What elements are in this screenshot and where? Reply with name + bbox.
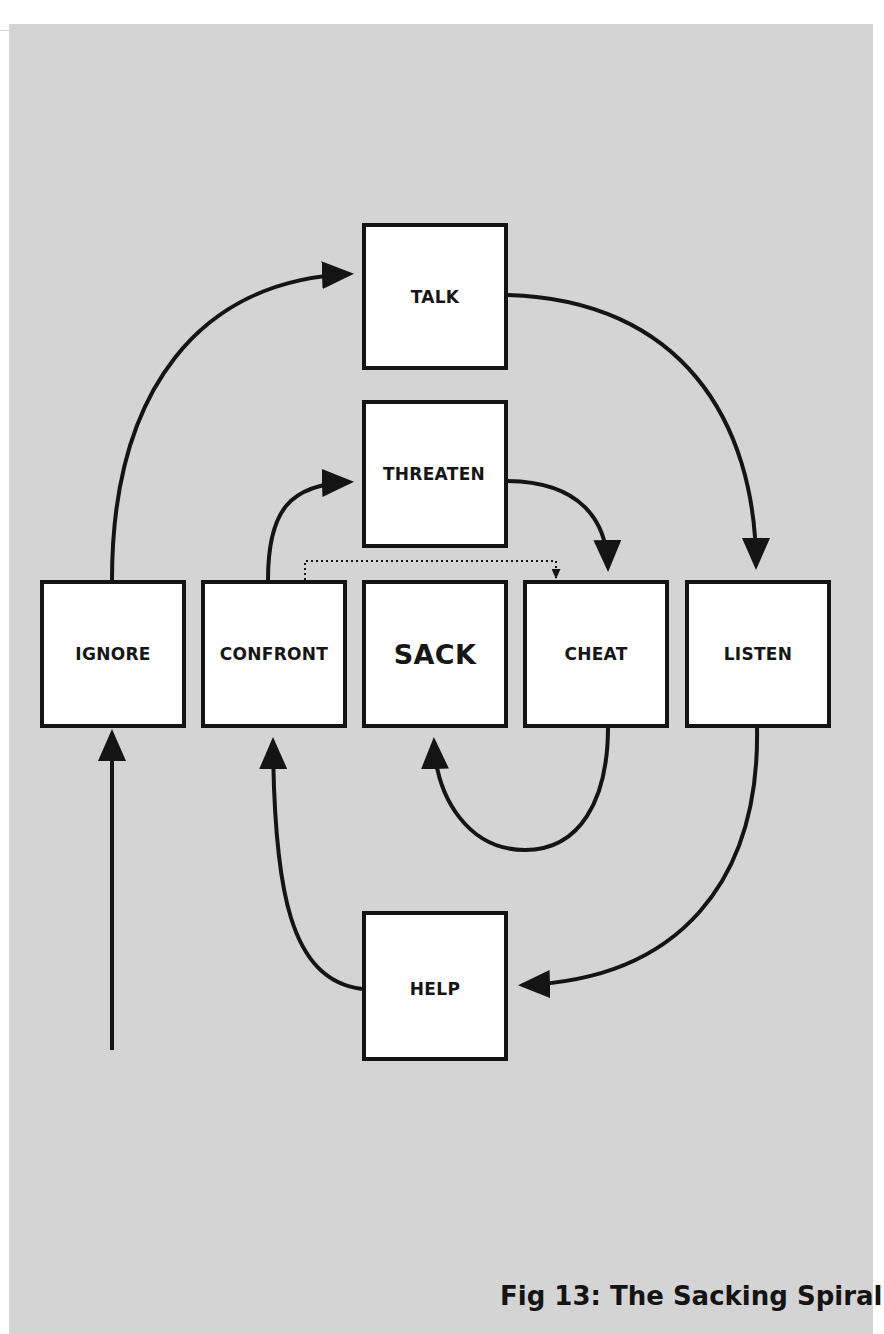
node-threaten: THREATEN [362,400,508,548]
arrow-threaten-to-cheat [508,481,608,568]
arrow-help-to-confront [273,741,362,989]
figure-caption: Fig 13: The Sacking Spiral [500,1281,840,1311]
node-listen-label: LISTEN [724,644,793,664]
arrow-cheat-to-sack [434,727,608,850]
arrow-listen-to-help [522,727,757,985]
node-ignore: IGNORE [40,580,186,728]
node-cheat-label: CHEAT [564,644,627,664]
node-sack: SACK [362,580,508,728]
node-listen: LISTEN [685,580,831,728]
node-help-label: HELP [410,979,460,999]
node-threaten-label: THREATEN [383,464,485,484]
node-help: HELP [362,911,508,1061]
arrow-confront-to-cheat-dotted [305,561,556,580]
arrow-talk-to-listen [508,295,756,566]
node-talk: TALK [362,223,508,370]
node-ignore-label: IGNORE [75,644,150,664]
node-sack-label: SACK [394,639,476,670]
arrow-confront-to-threaten [268,482,350,580]
node-confront-label: CONFRONT [220,644,329,664]
node-cheat: CHEAT [523,580,669,728]
node-confront: CONFRONT [201,580,347,728]
arrow-ignore-to-talk [112,274,350,580]
node-talk-label: TALK [411,287,460,307]
